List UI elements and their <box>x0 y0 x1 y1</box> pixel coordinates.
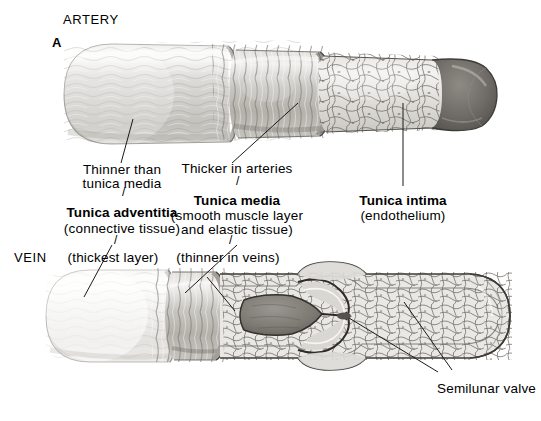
tick-1: / <box>122 186 126 200</box>
intima-sub: (endothelium) <box>360 208 445 223</box>
panel-marker: A <box>52 36 61 51</box>
adventitia-sub: (connective tissue) <box>64 221 180 236</box>
tick-4: / <box>229 234 233 248</box>
tick-2: / <box>114 234 118 248</box>
artery-tunica-intima <box>314 50 450 140</box>
media-thinner-veins: (thinner in veins) <box>176 250 279 265</box>
adventitia-name: Tunica adventitia <box>67 205 178 220</box>
intima-name: Tunica intima <box>359 193 446 208</box>
media-name: Tunica media <box>194 193 280 208</box>
adventitia-thickest: (thickest layer) <box>68 250 159 265</box>
tick-3: / <box>236 175 240 189</box>
artery-title: ARTERY <box>63 13 119 28</box>
vein-title: VEIN <box>14 251 47 266</box>
media-sub2: and elastic tissue) <box>181 222 293 237</box>
vein-sectioned-wall <box>218 262 518 370</box>
semilunar-valve-label: Semilunar valve <box>437 381 536 396</box>
